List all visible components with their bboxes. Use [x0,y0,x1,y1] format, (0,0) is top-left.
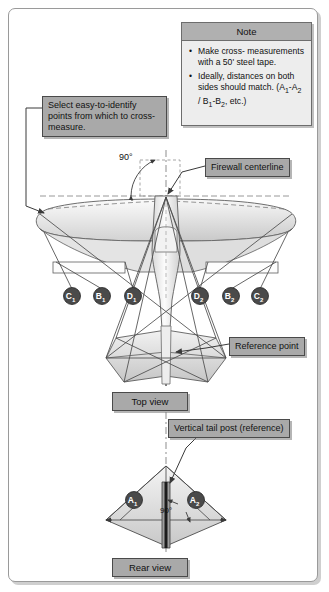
callout-select-points: Select easy-to-identify points from whic… [42,96,167,137]
tail-post-core [165,482,168,548]
callout-firewall-centerline: Firewall centerline [205,158,290,177]
callout-reference-point: Reference point [229,337,305,356]
note-body: Make cross- measurements with a 50' stee… [182,41,311,110]
marker-a1: A1 [126,492,143,509]
note-bullet-2: Ideally, distances on both sides should … [197,71,305,110]
note-b1-l1: Make cross- [198,46,245,56]
caption-rear-view: Rear view [112,558,188,577]
marker-b2: B2 [223,288,240,305]
marker-d2: D2 [192,288,209,305]
note-b1-l3: steel tape. [236,57,276,67]
angle-label-rear: 90° [160,506,172,515]
right-stabilizer [166,330,226,382]
marker-c1: C1 [64,288,81,305]
vertical-fin-top [161,326,171,384]
marker-b1: B1 [94,288,111,305]
note-bullet-1: Make cross- measurements with a 50' stee… [197,46,305,67]
figure-page: C1B1D1D2B2C2A1A2 Note Make cross- measur… [0,0,329,592]
note-header: Note [182,23,311,41]
marker-c2: C2 [252,288,269,305]
caption-top-view: Top view [112,392,188,411]
note-box: Note Make cross- measurements with a 50'… [181,22,312,126]
note-b2-l1: Ideally, distances on [198,71,275,81]
ninety-degree-arc-top [131,160,155,196]
left-stabilizer [106,330,166,382]
firewall-leader [168,166,205,194]
marker-a2: A2 [188,492,205,509]
angle-label-top: 90° [119,152,133,162]
marker-d1: D1 [125,288,142,305]
callout-vertical-tail-post: Vertical tail post (reference) [168,419,290,438]
